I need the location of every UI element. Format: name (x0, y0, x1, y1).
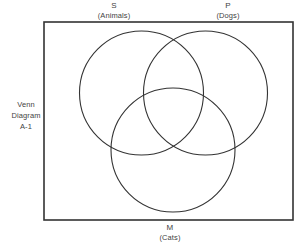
circle-m-cats (111, 88, 235, 212)
label-set-m-symbol: M (159, 223, 180, 233)
circle-s-animals (80, 31, 204, 155)
diagram-caption-line-1: Venn (11, 99, 40, 110)
universe-rectangle (44, 22, 293, 220)
venn-diagram-graphic (0, 0, 304, 251)
label-set-s: S (Animals) (98, 1, 131, 21)
circle-p-dogs (144, 31, 268, 155)
diagram-caption-line-3: A-1 (11, 121, 40, 132)
label-set-p: P (Dogs) (216, 1, 239, 21)
diagram-caption-line-2: Diagram (11, 110, 40, 121)
diagram-caption: Venn Diagram A-1 (11, 99, 40, 132)
venn-diagram-canvas: S (Animals) P (Dogs) M (Cats) Venn Diagr… (0, 0, 304, 251)
label-set-s-name: (Animals) (98, 11, 131, 21)
label-set-m: M (Cats) (159, 223, 180, 243)
label-set-p-name: (Dogs) (216, 11, 239, 21)
label-set-s-symbol: S (98, 1, 131, 11)
label-set-p-symbol: P (216, 1, 239, 11)
label-set-m-name: (Cats) (159, 233, 180, 243)
